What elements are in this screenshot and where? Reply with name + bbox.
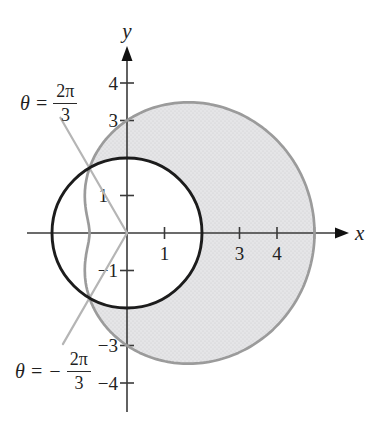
x-axis-arrowhead (335, 228, 349, 239)
theta-upper-fraction: 2π 3 (53, 82, 77, 124)
theta-upper-denominator: 3 (61, 104, 70, 124)
polar-region-figure: 134431−1−3−4xy θ = 2π 3 θ = − 2π 3 (0, 0, 386, 427)
theta-lower-denominator: 3 (74, 372, 83, 392)
x-tick-label-1: 1 (160, 243, 170, 264)
theta-upper-numerator: 2π (53, 82, 77, 104)
theta-label-lower: θ = − 2π 3 (15, 350, 91, 392)
theta-lower-numerator: 2π (67, 350, 91, 372)
theta-upper-lhs: θ = (20, 93, 48, 113)
theta-lower-fraction: 2π 3 (67, 350, 91, 392)
y-tick-label--4: −4 (98, 373, 119, 394)
y-tick-label-4: 4 (109, 73, 119, 94)
theta-lower-lhs: θ = − (15, 361, 62, 381)
x-tick-label-3: 3 (235, 243, 245, 264)
y-axis-arrowhead (122, 46, 133, 61)
x-axis-label: x (354, 221, 365, 245)
x-tick-label-4: 4 (272, 243, 282, 264)
y-axis-label: y (120, 19, 132, 43)
y-tick-label--3: −3 (98, 335, 118, 356)
theta-label-upper: θ = 2π 3 (20, 82, 77, 124)
